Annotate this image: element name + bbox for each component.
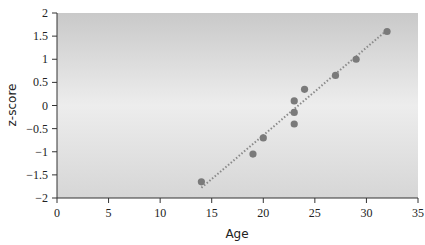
x-tick-label: 0 xyxy=(54,206,60,220)
data-point xyxy=(260,134,267,141)
x-tick-label: 35 xyxy=(412,206,424,220)
x-tick-label: 10 xyxy=(154,206,166,220)
scatter-chart: 05101520253035 −2−1.5−1−0.500.511.52 Age… xyxy=(0,0,425,245)
x-axis-title: Age xyxy=(225,227,248,241)
plot-area xyxy=(57,13,418,198)
data-point xyxy=(291,109,298,116)
data-point xyxy=(301,86,308,93)
y-tick-label: 1 xyxy=(42,52,48,66)
y-tick-label: 2 xyxy=(42,6,48,20)
data-point xyxy=(332,72,339,79)
y-tick-label: −1.5 xyxy=(26,168,48,182)
y-axis-ticks: −2−1.5−1−0.500.511.52 xyxy=(26,6,57,205)
y-tick-label: 0 xyxy=(42,99,48,113)
x-axis-ticks: 05101520253035 xyxy=(54,198,424,220)
data-point xyxy=(291,97,298,104)
chart-canvas: 05101520253035 −2−1.5−1−0.500.511.52 Age… xyxy=(0,0,425,245)
data-point xyxy=(353,56,360,63)
y-tick-label: −2 xyxy=(35,191,48,205)
y-tick-label: −0.5 xyxy=(26,122,48,136)
x-tick-label: 25 xyxy=(309,206,321,220)
data-point xyxy=(198,178,205,185)
data-point xyxy=(249,150,256,157)
x-tick-label: 30 xyxy=(360,206,372,220)
data-point xyxy=(291,120,298,127)
y-tick-label: 1.5 xyxy=(33,29,48,43)
y-tick-label: −1 xyxy=(35,145,48,159)
x-tick-label: 15 xyxy=(206,206,218,220)
x-tick-label: 20 xyxy=(257,206,269,220)
y-tick-label: 0.5 xyxy=(33,75,48,89)
y-axis-title: z-score xyxy=(5,84,19,127)
x-tick-label: 5 xyxy=(106,206,112,220)
data-point xyxy=(383,28,390,35)
